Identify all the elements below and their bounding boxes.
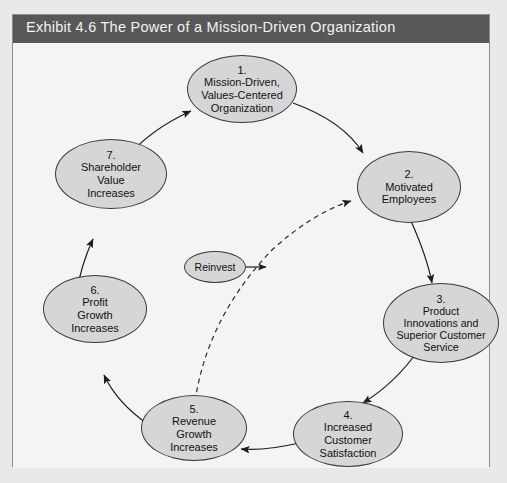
diagram-canvas: 1. Mission-Driven, Values-Centered Organ… [13, 43, 489, 468]
node-5-text: 5. Revenue Growth Increases [166, 403, 222, 453]
edge-1-to-2 [293, 103, 363, 153]
node-4-line1: 4. [343, 409, 352, 421]
edge-4-to-5 [241, 443, 299, 449]
node-3-line3: Innovations and [404, 317, 479, 329]
reinvest-label-text: Reinvest [195, 261, 236, 273]
node-7-line2: Shareholder [81, 161, 141, 173]
node-2-line2: Motivated [385, 181, 433, 193]
node-7-text: 7. Shareholder Value Increases [77, 149, 145, 199]
node-7-line1: 7. [106, 149, 115, 161]
node-6-line4: Increases [71, 322, 119, 334]
node-1-line3: Values-Centered [201, 89, 283, 101]
node-1-line2: Mission-Driven, [204, 76, 280, 88]
node-5-revenue-growth[interactable]: 5. Revenue Growth Increases [141, 395, 247, 461]
node-5-line3: Growth [176, 428, 211, 440]
node-2-motivated-employees[interactable]: 2. Motivated Employees [357, 151, 461, 223]
node-1-text: 1. Mission-Driven, Values-Centered Organ… [197, 64, 287, 114]
exhibit-frame: Exhibit 4.6 The Power of a Mission-Drive… [12, 14, 490, 467]
node-3-text: 3. Product Innovations and Superior Cust… [393, 293, 490, 353]
node-4-line4: Satisfaction [320, 447, 377, 459]
node-7-shareholder-value[interactable]: 7. Shareholder Value Increases [55, 139, 167, 209]
node-4-line2: Increased [324, 421, 372, 433]
node-3-product-innovations[interactable]: 3. Product Innovations and Superior Cust… [383, 283, 499, 363]
node-1-line1: 1. [237, 64, 246, 76]
node-3-line4: Superior Customer [397, 329, 486, 341]
node-7-line4: Increases [87, 187, 135, 199]
node-3-line5: Service [423, 341, 458, 353]
node-1-line4: Organization [211, 102, 273, 114]
node-3-line2: Product [423, 305, 460, 317]
diagram-screenshot: Exhibit 4.6 The Power of a Mission-Drive… [0, 0, 507, 483]
reinvest-label-node[interactable]: Reinvest [184, 251, 246, 283]
node-1-mission-driven[interactable]: 1. Mission-Driven, Values-Centered Organ… [187, 55, 297, 123]
edge-3-to-4 [363, 352, 417, 403]
node-5-line1: 5. [189, 403, 198, 415]
node-6-line2: Profit [82, 296, 108, 308]
node-4-text: 4. Increased Customer Satisfaction [316, 409, 381, 459]
node-6-profit-growth[interactable]: 6. Profit Growth Increases [43, 275, 147, 343]
node-2-line3: Employees [382, 193, 436, 205]
edge-5-to-2-dashed [193, 201, 351, 419]
node-5-line2: Revenue [172, 415, 216, 427]
node-3-line1: 3. [437, 293, 446, 305]
node-6-text: 6. Profit Growth Increases [67, 284, 123, 334]
exhibit-header-bar: Exhibit 4.6 The Power of a Mission-Drive… [13, 15, 489, 43]
node-4-increased-customer-satisfaction[interactable]: 4. Increased Customer Satisfaction [293, 401, 403, 467]
node-6-line1: 6. [90, 284, 99, 296]
node-2-line1: 2. [404, 168, 413, 180]
exhibit-title: Exhibit 4.6 The Power of a Mission-Drive… [26, 19, 395, 35]
edge-2-to-3 [411, 221, 432, 283]
node-5-line4: Increases [170, 441, 218, 453]
node-4-line3: Customer [324, 434, 372, 446]
node-7-line3: Value [97, 174, 124, 186]
node-6-line3: Growth [77, 309, 112, 321]
node-2-text: 2. Motivated Employees [378, 168, 440, 206]
